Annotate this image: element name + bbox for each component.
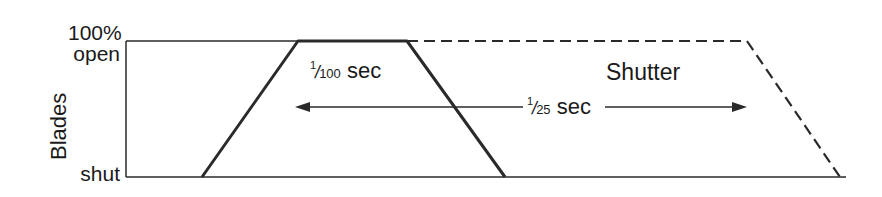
interval-duration-unit: sec — [557, 94, 591, 119]
y-label-100-percent: 100% — [68, 22, 120, 43]
y-label-shut: shut — [58, 163, 120, 184]
arrow-right-head-icon — [732, 102, 747, 112]
blade-duration-label: 1/100 sec — [310, 60, 381, 82]
arrow-left-head-icon — [295, 102, 310, 112]
interval-arrow — [295, 102, 747, 112]
blade-duration-denominator: 100 — [319, 66, 341, 81]
interval-duration-denominator: 25 — [536, 102, 550, 117]
blade-duration-unit: sec — [347, 58, 381, 83]
interval-duration-label: 1/25 sec — [527, 96, 591, 118]
y-label-open: open — [58, 43, 120, 64]
shutter-label: Shutter — [606, 61, 680, 84]
y-axis-title: Blades — [48, 93, 70, 160]
diagram-canvas — [0, 0, 882, 197]
